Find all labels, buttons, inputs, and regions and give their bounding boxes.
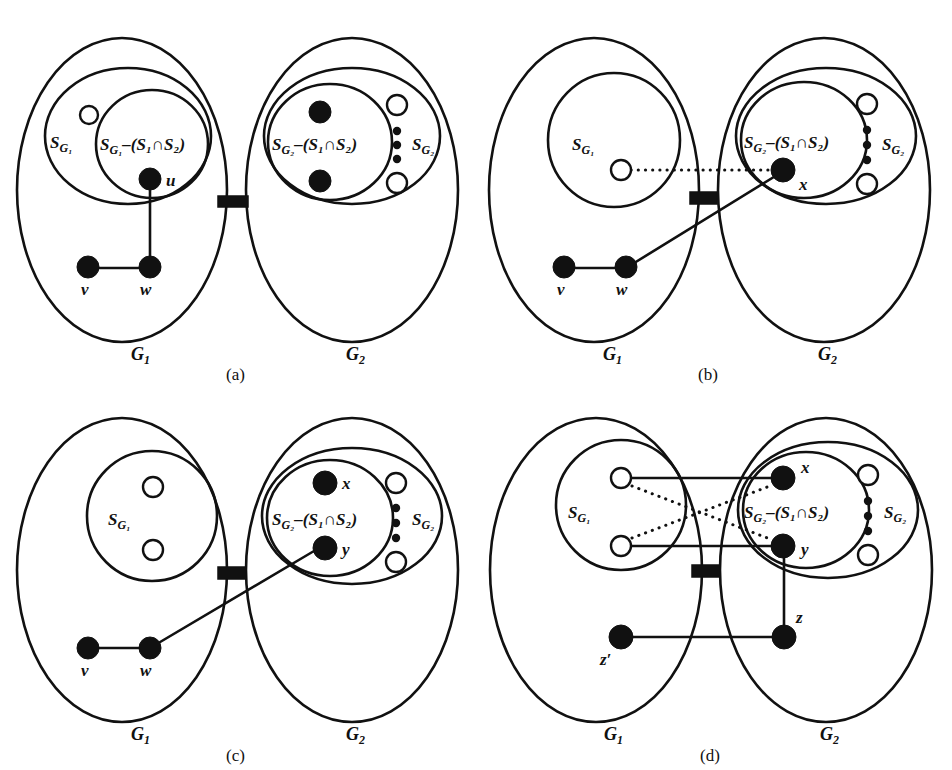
panel-caption-d: (d) bbox=[700, 746, 720, 765]
label-sg2: SG₂ bbox=[412, 510, 434, 532]
sg1-ellipse bbox=[548, 73, 680, 207]
node-w bbox=[139, 637, 161, 659]
label-node-y: y bbox=[340, 540, 350, 559]
open-node-top bbox=[611, 468, 631, 488]
node-filled-top bbox=[309, 101, 331, 123]
label-sg1: SG₁ bbox=[572, 135, 594, 157]
vertical-ellipsis-dot bbox=[863, 126, 871, 134]
label-sg2-minus: SG₂–(S₁∩S₂) bbox=[744, 503, 829, 525]
open-node-bottom bbox=[387, 173, 407, 193]
node-v bbox=[553, 256, 575, 278]
node-w bbox=[615, 256, 637, 278]
label-g1: G1 bbox=[131, 344, 150, 367]
label-g2: G2 bbox=[346, 344, 365, 367]
panel-a: SG₁ SG₁–(S₁∩S₂) SG₂–(S₁∩S₂) SG₂ u v w G1… bbox=[0, 0, 476, 390]
label-g2: G2 bbox=[820, 724, 839, 747]
label-node-z: z bbox=[795, 608, 803, 627]
label-sg1: SG₁ bbox=[568, 503, 590, 525]
open-node-top bbox=[387, 95, 407, 115]
vertical-ellipsis-dot bbox=[392, 519, 400, 527]
sg1-ellipse bbox=[87, 451, 217, 581]
node-v bbox=[77, 637, 99, 659]
label-sg1-minus: SG₁–(S₁∩S₂) bbox=[100, 135, 185, 157]
node-v bbox=[77, 256, 99, 278]
label-node-x: x bbox=[798, 175, 808, 194]
figure-root: SG₁ SG₁–(S₁∩S₂) SG₂–(S₁∩S₂) SG₂ u v w G1… bbox=[0, 0, 952, 770]
open-node-bottom bbox=[857, 174, 877, 194]
g2-outer-ellipse bbox=[720, 418, 932, 722]
panel-caption-c: (c) bbox=[226, 746, 245, 765]
label-sg2-minus: SG₂–(S₁∩S₂) bbox=[272, 510, 357, 532]
vertical-ellipsis-dot bbox=[864, 527, 872, 535]
open-node-bottom bbox=[143, 540, 163, 560]
open-node-top bbox=[858, 465, 878, 485]
node-x bbox=[771, 466, 795, 490]
node-z bbox=[772, 625, 796, 649]
label-node-v: v bbox=[81, 661, 89, 680]
open-node-top bbox=[386, 473, 406, 493]
label-sg2-minus: SG₂–(S₁∩S₂) bbox=[744, 133, 829, 155]
label-sg2: SG₂ bbox=[882, 135, 904, 157]
label-g2: G2 bbox=[346, 724, 365, 747]
vertical-ellipsis-dot bbox=[864, 512, 872, 520]
node-y bbox=[771, 534, 795, 558]
vertical-ellipsis-dot bbox=[392, 504, 400, 512]
open-node bbox=[80, 106, 98, 124]
label-node-w: w bbox=[140, 280, 152, 299]
edge-w-y bbox=[150, 551, 314, 648]
label-sg1: SG₁ bbox=[50, 133, 72, 155]
open-node-top bbox=[143, 477, 163, 497]
vertical-ellipsis-dot bbox=[393, 141, 401, 149]
panel-c: SG₁ SG₂–(S₁∩S₂) SG₂ x y v w G1 G2 (c) bbox=[0, 385, 476, 770]
label-sg2-minus: SG₂–(S₁∩S₂) bbox=[272, 135, 357, 157]
panel-caption-a: (a) bbox=[226, 365, 245, 384]
vertical-ellipsis-dot bbox=[864, 497, 872, 505]
label-node-x: x bbox=[341, 474, 351, 493]
graph-bridge-connector bbox=[690, 192, 717, 204]
open-node-bottom bbox=[858, 545, 878, 565]
panel-b: SG₁ SG₂–(S₁∩S₂) SG₂ x v w G1 G2 (b) bbox=[476, 0, 952, 390]
label-node-x: x bbox=[800, 458, 810, 477]
label-node-v: v bbox=[557, 280, 565, 299]
open-node bbox=[611, 160, 631, 180]
label-node-y: y bbox=[799, 540, 809, 559]
label-node-w: w bbox=[616, 280, 628, 299]
vertical-ellipsis-dot bbox=[393, 155, 401, 163]
label-sg1: SG₁ bbox=[108, 510, 130, 532]
label-node-w: w bbox=[140, 661, 152, 680]
node-x bbox=[771, 158, 795, 182]
node-y bbox=[313, 536, 337, 560]
open-node-bottom bbox=[611, 536, 631, 556]
node-x bbox=[313, 471, 337, 495]
open-node-top bbox=[857, 94, 877, 114]
edge-w-x bbox=[626, 172, 782, 268]
graph-bridge-connector bbox=[218, 196, 248, 207]
vertical-ellipsis-dot bbox=[863, 141, 871, 149]
g1-outer-ellipse bbox=[17, 418, 227, 722]
label-g2: G2 bbox=[818, 344, 837, 367]
graph-bridge-connector bbox=[692, 565, 720, 577]
vertical-ellipsis-dot bbox=[393, 127, 401, 135]
label-node-v: v bbox=[81, 280, 89, 299]
panel-d: SG₁ SG₂–(S₁∩S₂) SG₂ x y z z′ G1 G2 (d) bbox=[476, 385, 952, 770]
vertical-ellipsis-dot bbox=[392, 534, 400, 542]
label-g1: G1 bbox=[604, 724, 623, 747]
graph-bridge-connector bbox=[218, 567, 246, 579]
label-node-z-prime: z′ bbox=[599, 650, 611, 669]
label-sg2: SG₂ bbox=[412, 135, 434, 157]
open-node-bottom bbox=[386, 552, 406, 572]
label-sg2: SG₂ bbox=[884, 503, 906, 525]
panel-caption-b: (b) bbox=[698, 365, 718, 384]
g2-outer-ellipse bbox=[246, 38, 458, 342]
label-node-u: u bbox=[166, 171, 175, 190]
node-w bbox=[139, 256, 161, 278]
g1-outer-ellipse bbox=[489, 38, 699, 342]
node-z-prime bbox=[609, 625, 633, 649]
label-g1: G1 bbox=[131, 724, 150, 747]
node-filled-bottom bbox=[309, 170, 331, 192]
node-u bbox=[139, 168, 161, 190]
label-g1: G1 bbox=[603, 344, 622, 367]
vertical-ellipsis-dot bbox=[863, 156, 871, 164]
